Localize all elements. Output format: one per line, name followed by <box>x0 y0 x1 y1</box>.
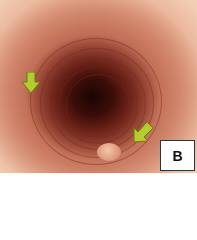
mucosal-ring <box>66 74 130 138</box>
lesion-nodule <box>97 143 121 161</box>
panel-label: B <box>160 140 195 171</box>
arrow-down-icon <box>22 72 40 94</box>
arrow-down-left-icon <box>131 122 153 144</box>
